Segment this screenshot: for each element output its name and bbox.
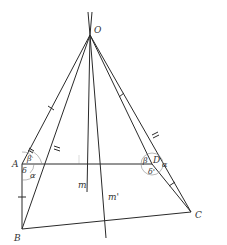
label-c: C — [195, 210, 202, 220]
line-m-prime — [90, 35, 106, 238]
label-d: D — [152, 155, 160, 165]
angle-alpha-a: α — [30, 171, 36, 180]
tick-marks — [18, 93, 175, 197]
line-m — [87, 35, 90, 192]
edge-ob — [22, 35, 90, 229]
edge-bc — [22, 212, 191, 229]
label-m-prime: m' — [108, 192, 119, 202]
label-a: A — [11, 159, 19, 169]
angle-beta-d: β — [142, 156, 148, 165]
edge-dc — [152, 164, 191, 212]
angle-beta-a: β — [26, 154, 32, 163]
ray-above-o-1 — [88, 12, 90, 35]
ray-above-o-2 — [90, 12, 92, 35]
angle-delta-d: δ' — [148, 167, 155, 176]
edge-oc — [90, 35, 191, 212]
label-o: O — [94, 25, 102, 35]
label-m: m — [78, 180, 87, 190]
angle-delta-a: δ — [22, 166, 27, 175]
edge-od — [90, 35, 152, 164]
angle-alpha-d: α — [162, 160, 168, 169]
edge-oa — [22, 35, 90, 164]
label-b: B — [13, 233, 21, 243]
geometry-diagram: O A B C D m m' β δ α β α δ' — [0, 0, 227, 245]
